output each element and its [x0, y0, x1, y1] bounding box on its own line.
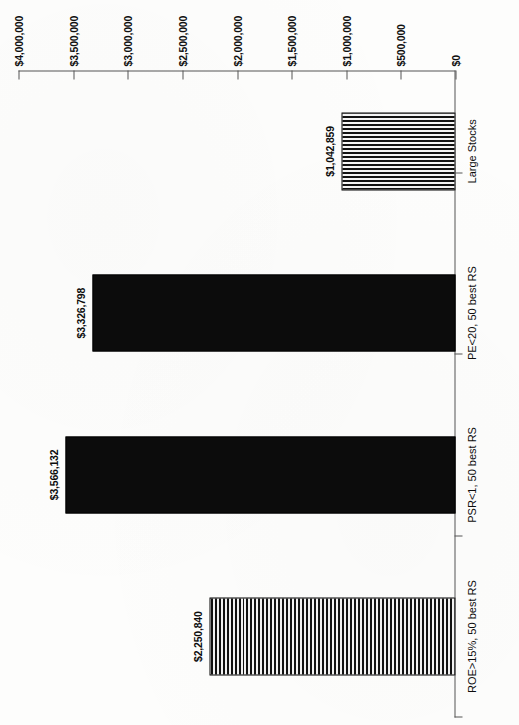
plot-area: $0$500,000$1,000,000$1,500,000$2,000,000…: [0, 0, 519, 725]
bar-value-label: $3,566,132: [47, 449, 59, 500]
value-axis-tick-label: $1,500,000: [285, 0, 297, 66]
rotated-chart-stage: $0$500,000$1,000,000$1,500,000$2,000,000…: [0, 0, 519, 725]
bar-series: $2,250,840$3,566,132$3,326,798$1,042,859: [18, 70, 455, 717]
bar[interactable]: [65, 436, 455, 514]
value-axis-tick-label: $2,000,000: [231, 0, 243, 66]
bar-slot: $2,250,840: [18, 555, 455, 717]
chart-page: $0$500,000$1,000,000$1,500,000$2,000,000…: [0, 0, 519, 725]
category-label: ROE>15%, 50 best RS: [465, 555, 477, 717]
category-label: PSR<1, 50 best RS: [465, 394, 477, 556]
value-axis-tick-label: $3,000,000: [121, 0, 133, 66]
category-labels: ROE>15%, 50 best RSPSR<1, 50 best RSPE<2…: [459, 70, 519, 717]
value-axis-tick-label: $4,000,000: [12, 0, 24, 66]
bar[interactable]: [92, 274, 455, 352]
bar-value-label: $1,042,859: [323, 126, 335, 177]
category-label: PE<20, 50 best RS: [465, 232, 477, 394]
bar-slot: $3,566,132: [18, 394, 455, 556]
value-axis-tick-label: $1,000,000: [340, 0, 352, 66]
value-axis-tick-label: $500,000: [394, 0, 406, 66]
bar-slot: $3,326,798: [18, 232, 455, 394]
category-label: Large Stocks: [465, 70, 477, 232]
bar[interactable]: [341, 112, 455, 190]
bar-value-label: $2,250,840: [191, 611, 203, 662]
bar-slot: $1,042,859: [18, 70, 455, 232]
bar-value-label: $3,326,798: [74, 287, 86, 338]
value-axis-tick-label: $2,500,000: [176, 0, 188, 66]
value-axis-tick-label: $0: [449, 0, 461, 66]
bar[interactable]: [209, 597, 455, 675]
value-axis-tick-label: $3,500,000: [67, 0, 79, 66]
